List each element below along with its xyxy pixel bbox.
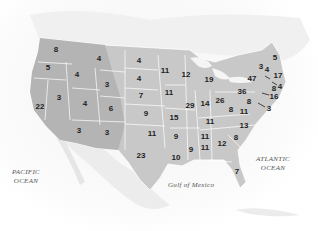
state-value-utah: 4 — [83, 100, 87, 108]
state-value-north-carolina: 13 — [240, 122, 249, 130]
state-value-vermont: 3 — [259, 63, 263, 71]
state-value-nevada: 3 — [57, 94, 61, 102]
state-value-illinois: 29 — [186, 102, 195, 110]
state-value-kansas: 9 — [144, 110, 148, 118]
state-value-massachusetts: 17 — [274, 72, 283, 80]
state-value-indiana: 14 — [201, 100, 210, 108]
state-value-wyoming: 3 — [105, 81, 109, 89]
state-value-california: 22 — [36, 103, 45, 111]
state-value-georgia: 12 — [218, 140, 227, 148]
state-value-michigan: 19 — [205, 76, 214, 84]
state-value-south-dakota: 4 — [137, 75, 141, 83]
state-value-new-mexico: 3 — [105, 129, 109, 137]
state-value-new-hampshire: 4 — [265, 66, 269, 74]
state-value-ohio: 26 — [216, 97, 225, 105]
state-value-new-jersey: 16 — [270, 93, 279, 101]
state-value-colorado: 6 — [109, 105, 113, 113]
state-value-mississippi: 9 — [189, 146, 193, 154]
state-value-louisiana: 10 — [172, 154, 181, 162]
state-value-kentucky: 11 — [206, 118, 214, 126]
state-value-virginia: 11 — [240, 108, 248, 116]
state-value-alabama: 11 — [201, 144, 209, 152]
state-value-maine: 5 — [273, 54, 277, 62]
state-value-rhode-island: 4 — [278, 83, 282, 91]
state-value-north-dakota: 4 — [137, 57, 141, 65]
state-value-new-york: 47 — [248, 75, 257, 83]
state-value-arkansas: 9 — [174, 133, 178, 141]
state-value-missouri: 15 — [170, 114, 179, 122]
state-value-texas: 23 — [137, 152, 146, 160]
state-value-oklahoma: 11 — [148, 130, 156, 138]
state-value-nebraska: 7 — [139, 92, 143, 100]
state-value-wisconsin: 12 — [182, 71, 191, 79]
state-value-iowa: 11 — [165, 89, 173, 97]
us-electoral-map: PACIFIC OCEAN ATLANTIC OCEAN Gulf of Mex… — [0, 0, 318, 231]
leader-lines — [0, 0, 318, 231]
state-value-florida: 7 — [235, 168, 239, 176]
state-value-delaware: 3 — [267, 105, 271, 113]
state-value-washington: 8 — [54, 46, 58, 54]
state-value-south-carolina: 8 — [234, 134, 238, 142]
state-value-montana: 4 — [97, 55, 101, 63]
state-value-tennessee: 11 — [201, 133, 209, 141]
state-value-oregon: 5 — [46, 64, 50, 72]
state-value-pennsylvania: 36 — [238, 88, 247, 96]
state-value-arizona: 3 — [77, 127, 81, 135]
state-value-idaho: 4 — [75, 71, 79, 79]
state-value-west-virginia: 8 — [229, 106, 233, 114]
state-value-minnesota: 11 — [161, 67, 169, 75]
state-value-maryland: 8 — [247, 98, 251, 106]
